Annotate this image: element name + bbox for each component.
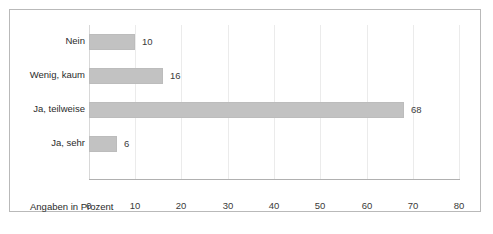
xtick-label-70: 70 <box>400 199 426 212</box>
xtick-label-50: 50 <box>307 199 333 212</box>
category-label-wenig-kaum: Wenig, kaum <box>0 68 85 82</box>
xtick-label-10: 10 <box>122 199 148 212</box>
xtick-label-60: 60 <box>354 199 380 212</box>
category-label-ja-sehr: Ja, sehr <box>0 136 85 150</box>
bar-nein <box>89 34 135 50</box>
category-label-nein: Nein <box>0 34 85 48</box>
xtick-label-30: 30 <box>215 199 241 212</box>
bar-value-ja-teilweise: 68 <box>411 103 422 117</box>
x-axis-line <box>89 179 460 180</box>
bar-wenig-kaum <box>89 68 163 84</box>
xtick-label-40: 40 <box>261 199 287 212</box>
bar-value-wenig-kaum: 16 <box>170 69 181 83</box>
plot-area: Nein Wenig, kaum Ja, teilweise Ja, sehr … <box>89 25 459 179</box>
gridline-80 <box>459 25 460 179</box>
xtick-label-80: 80 <box>446 199 472 212</box>
chart-frame: Nein Wenig, kaum Ja, teilweise Ja, sehr … <box>9 9 481 212</box>
x-axis-title: Angaben in Prozent <box>30 200 113 213</box>
bar-value-ja-sehr: 6 <box>124 137 129 151</box>
xtick-label-20: 20 <box>168 199 194 212</box>
category-label-ja-teilweise: Ja, teilweise <box>0 102 85 116</box>
bar-ja-sehr <box>89 136 117 152</box>
bar-ja-teilweise <box>89 102 404 118</box>
category-axis-labels: Nein Wenig, kaum Ja, teilweise Ja, sehr <box>0 25 85 179</box>
bar-value-nein: 10 <box>142 35 153 49</box>
gridline-70 <box>413 25 414 179</box>
figure: Nein Wenig, kaum Ja, teilweise Ja, sehr … <box>0 0 493 234</box>
